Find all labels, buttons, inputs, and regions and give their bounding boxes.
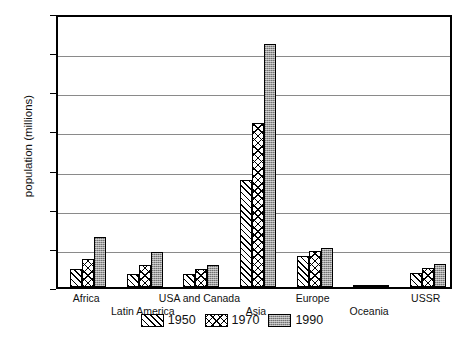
legend-item-1990[interactable]: 1990 (268, 314, 323, 327)
x-tick-label-ussr: USSR (411, 292, 440, 304)
bar-oceania-1950 (353, 285, 365, 287)
gray-stipple-swatch (268, 314, 291, 327)
diagonal-hatch-swatch (141, 314, 164, 327)
x-tick-label-africa: Africa (73, 292, 100, 304)
legend-label: 1950 (168, 314, 196, 327)
bar-ussr-1990 (434, 264, 446, 287)
gridline (58, 95, 450, 96)
bar-asia-1950 (240, 180, 252, 287)
bar-ussr-1950 (410, 273, 422, 287)
x-tick-label-europe: Europe (296, 292, 330, 304)
crosshatch-swatch (205, 314, 228, 327)
bar-ussr-1970 (422, 268, 434, 287)
legend-item-1970[interactable]: 1970 (205, 314, 260, 327)
bar-oceania-1990 (377, 285, 389, 287)
gridline (58, 56, 450, 57)
bar-africa-1970 (82, 259, 94, 287)
bar-latin-america-1990 (151, 252, 163, 287)
bar-oceania-1970 (365, 285, 377, 287)
legend-item-1950[interactable]: 1950 (141, 314, 196, 327)
x-tick-label-usa-and-canada: USA and Canada (159, 292, 240, 304)
bar-africa-1950 (70, 269, 82, 287)
bar-usa-and-canada-1950 (183, 274, 195, 287)
bar-asia-1990 (264, 44, 276, 287)
bar-europe-1990 (321, 248, 333, 287)
legend-label: 1970 (232, 314, 260, 327)
plot-area (56, 15, 452, 289)
y-tick-mark (50, 289, 56, 290)
bar-usa-and-canada-1990 (207, 265, 219, 287)
bar-europe-1950 (297, 256, 309, 287)
bar-latin-america-1950 (127, 274, 139, 287)
bar-asia-1970 (252, 123, 264, 287)
bar-latin-america-1970 (139, 265, 151, 287)
chart-figure: population (millions) 050010001500200025… (0, 0, 464, 340)
bar-usa-and-canada-1970 (195, 269, 207, 287)
bar-europe-1970 (309, 251, 321, 287)
bar-africa-1990 (94, 237, 106, 287)
legend-label: 1990 (295, 314, 323, 327)
chart-legend: 195019701990 (0, 314, 464, 327)
